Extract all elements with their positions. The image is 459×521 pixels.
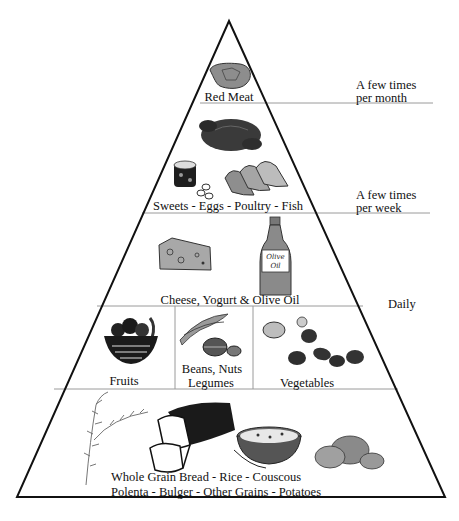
roast-chicken-icon	[199, 119, 262, 151]
section-label-beans-line2: Legumes	[188, 376, 234, 390]
section-label-fruits: Fruits	[109, 374, 138, 388]
frequency-weekly-line2: per week	[356, 201, 401, 215]
frequency-monthly-line1: A few times	[356, 78, 416, 92]
fruit-bowl-icon	[104, 318, 158, 364]
section-label-vegetables: Vegetables	[280, 376, 334, 390]
steak-icon	[210, 63, 250, 88]
eggs-icon	[197, 184, 213, 199]
vegetables-icon	[263, 317, 364, 367]
bottle-label-line2: Oil	[270, 262, 280, 270]
bottle-label-line1: Olive	[266, 253, 284, 261]
nuts-icon	[203, 338, 241, 356]
grain-bowl-icon	[234, 427, 301, 468]
tier-label-red-meat: Red Meat	[205, 90, 254, 104]
tier-label-dairy-oil: Cheese, Yogurt & Olive Oil	[161, 293, 300, 307]
olive-oil-bottle-icon: Olive Oil	[260, 217, 291, 295]
frequency-daily: Daily	[388, 297, 416, 311]
bread-loaf-icon	[150, 402, 235, 472]
potatoes-icon	[315, 436, 384, 469]
fish-steaks-icon	[225, 161, 288, 195]
tier-label-grains-line2: Polenta - Bulger - Other Grains - Potato…	[111, 485, 321, 499]
frequency-monthly-line2: per month	[356, 91, 407, 105]
section-label-beans-line1: Beans, Nuts	[182, 362, 242, 376]
food-pyramid-diagram: Olive Oil	[0, 0, 459, 521]
sweets-icon	[174, 161, 196, 187]
tier-label-grains-line1: Whole Grain Bread - Rice - Couscous	[111, 470, 301, 484]
cheese-icon	[159, 238, 211, 270]
frequency-weekly-line1: A few times	[356, 188, 416, 202]
tier-label-weekly: Sweets - Eggs - Poultry - Fish	[153, 199, 303, 213]
